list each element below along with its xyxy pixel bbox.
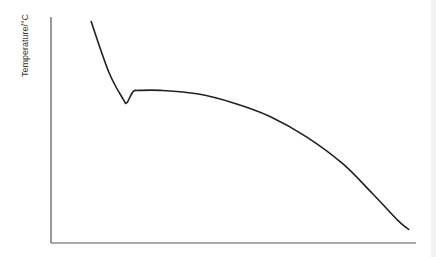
cooling-curve-line xyxy=(91,22,409,230)
chart-plot-area xyxy=(0,0,436,257)
